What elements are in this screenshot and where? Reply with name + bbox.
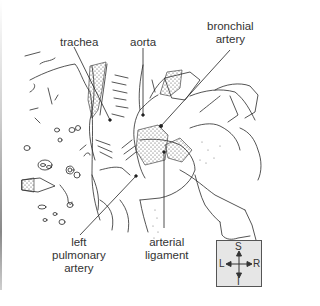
leader-left-pulmonary-artery <box>80 176 136 235</box>
label-lpa-line1: left <box>52 236 106 249</box>
label-trachea: trachea <box>60 36 98 49</box>
label-aorta-text: aorta <box>130 36 156 48</box>
label-bronchial-artery: bronchial artery <box>207 20 254 46</box>
label-bronchial-line1: bronchial <box>207 20 254 33</box>
compass-superior: S <box>235 242 242 252</box>
compass-left: L <box>219 259 225 269</box>
compass-right: R <box>253 259 260 269</box>
label-lpa-line2: pulmonary <box>52 249 106 262</box>
label-al-line1: arterial <box>145 236 188 249</box>
label-left-pulmonary-artery: left pulmonary artery <box>52 236 106 275</box>
label-lpa-line3: artery <box>52 262 106 275</box>
orientation-compass: S I L R <box>216 240 262 287</box>
label-bronchial-line2: artery <box>207 33 254 46</box>
stipple-aorta <box>136 125 168 165</box>
label-aorta: aorta <box>130 36 156 49</box>
label-trachea-text: trachea <box>60 36 98 48</box>
label-al-line2: ligament <box>145 249 188 262</box>
label-arterial-ligament: arterial ligament <box>145 236 188 262</box>
compass-inferior: I <box>237 277 240 287</box>
